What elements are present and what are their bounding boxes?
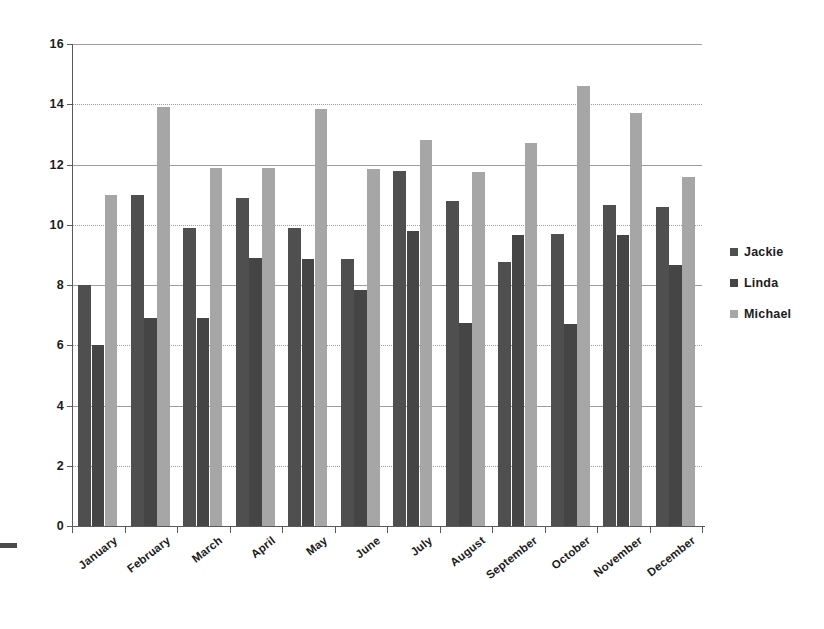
bar-jackie-june[interactable] [341,259,354,526]
bar-linda-march[interactable] [197,318,210,526]
bar-linda-october[interactable] [564,324,577,526]
bar-linda-december[interactable] [669,265,682,526]
legend-label: Jackie [744,245,783,259]
bar-linda-may[interactable] [302,259,315,526]
bar-jackie-august[interactable] [446,201,459,526]
legend-label: Michael [744,307,791,321]
legend-swatch-icon [730,248,738,256]
bar-jackie-january[interactable] [78,285,91,526]
bar-group [335,44,388,526]
bar-linda-april[interactable] [249,258,262,526]
x-axis-label-november: November [592,534,645,579]
x-axis-label-august: August [448,534,488,569]
x-axis-label-january: January [76,534,119,571]
bar-group [545,44,598,526]
legend-swatch-icon [730,279,738,287]
legend-item-jackie[interactable]: Jackie [730,236,820,267]
legend-item-michael[interactable]: Michael [730,298,820,329]
bar-michael-october[interactable] [577,86,590,526]
bar-michael-april[interactable] [262,168,275,526]
y-tick-label: 6 [57,338,64,352]
bar-group [650,44,703,526]
bar-michael-july[interactable] [420,140,433,526]
bar-linda-february[interactable] [144,318,157,526]
x-axis-label-july: July [408,534,434,558]
y-tick-label: 8 [57,278,64,292]
bar-michael-may[interactable] [315,109,328,526]
bar-linda-november[interactable] [617,235,630,526]
y-tick-mark [67,225,73,226]
bar-group [387,44,440,526]
x-axis-label-april: April [248,534,277,560]
bar-michael-november[interactable] [630,113,643,526]
scan-artifact-mark [0,543,17,548]
bar-jackie-march[interactable] [183,228,196,526]
x-axis-labels: JanuaryFebruaryMarchAprilMayJuneJulyAugu… [72,530,702,625]
y-tick-label: 16 [49,37,64,51]
y-tick-label: 4 [57,399,64,413]
y-tick-label: 12 [49,158,64,172]
bar-michael-january[interactable] [105,195,118,526]
bar-linda-september[interactable] [512,235,525,526]
x-axis-label-february: February [125,534,172,575]
bar-group [125,44,178,526]
bar-jackie-december[interactable] [656,207,669,526]
legend-swatch-icon [730,310,738,318]
bar-linda-august[interactable] [459,323,472,526]
plot-area [72,44,702,526]
bar-linda-june[interactable] [354,290,367,526]
y-tick-label: 2 [57,459,64,473]
bar-linda-january[interactable] [92,345,105,526]
y-tick-label: 14 [49,97,64,111]
bar-group [72,44,125,526]
y-tick-mark [67,104,73,105]
y-tick-mark [67,345,73,346]
bar-jackie-july[interactable] [393,171,406,526]
legend: JackieLindaMichael [730,236,820,329]
x-axis-label-march: March [190,534,225,565]
x-tick-mark [702,527,703,533]
x-axis-label-october: October [549,534,592,571]
bar-group [492,44,545,526]
y-tick-mark [67,165,73,166]
bar-jackie-april[interactable] [236,198,249,526]
bar-group [177,44,230,526]
bar-jackie-september[interactable] [498,262,511,526]
bar-linda-july[interactable] [407,231,420,526]
bar-michael-august[interactable] [472,172,485,526]
x-axis-label-september: September [484,534,540,581]
bar-jackie-may[interactable] [288,228,301,526]
bar-michael-december[interactable] [682,177,695,526]
bar-michael-june[interactable] [367,169,380,526]
bar-michael-september[interactable] [525,143,538,526]
y-tick-mark [67,466,73,467]
bar-group [282,44,335,526]
bar-jackie-november[interactable] [603,205,616,526]
y-tick-label: 0 [57,519,64,533]
bar-group [597,44,650,526]
bar-jackie-february[interactable] [131,195,144,526]
legend-label: Linda [744,276,778,290]
bar-group [440,44,493,526]
bar-group [230,44,283,526]
x-axis-label-june: June [353,534,382,560]
bar-michael-february[interactable] [157,107,170,526]
legend-item-linda[interactable]: Linda [730,267,820,298]
y-tick-label: 10 [49,218,64,232]
bar-michael-march[interactable] [210,168,223,526]
y-tick-mark [67,44,73,45]
bar-jackie-october[interactable] [551,234,564,526]
x-axis-label-may: May [304,534,329,558]
x-axis-line [72,526,705,527]
bar-chart: 0246810121416 JanuaryFebruaryMarchAprilM… [0,0,824,629]
y-tick-mark [67,406,73,407]
y-tick-mark [67,285,73,286]
x-axis-label-december: December [645,534,697,579]
